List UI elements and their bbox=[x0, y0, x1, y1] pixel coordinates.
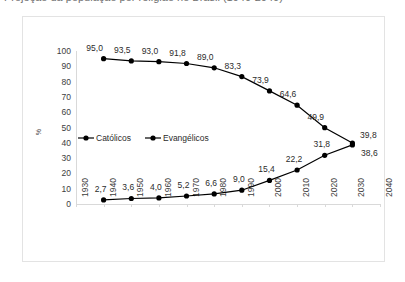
data-point[interactable] bbox=[129, 196, 134, 201]
data-label: 64,6 bbox=[280, 89, 297, 99]
data-label: 38,6 bbox=[361, 148, 378, 158]
data-point[interactable] bbox=[156, 59, 161, 64]
data-point[interactable] bbox=[129, 58, 134, 63]
data-label: 2,7 bbox=[95, 184, 107, 194]
caption-text: Projeção da população por religião no Br… bbox=[4, 0, 283, 3]
plot-area: % 0102030405060708090100 193019401950196… bbox=[23, 17, 386, 263]
chart-legend: CatólicosEvangélicos bbox=[78, 130, 258, 146]
data-label: 31,8 bbox=[313, 139, 330, 149]
data-label: 5,2 bbox=[178, 180, 190, 190]
legend-item-evangélicos[interactable]: Evangélicos bbox=[145, 133, 209, 143]
data-point[interactable] bbox=[184, 61, 189, 66]
data-point[interactable] bbox=[212, 191, 217, 196]
data-label: 49,9 bbox=[307, 112, 324, 122]
data-point[interactable] bbox=[156, 195, 161, 200]
data-point[interactable] bbox=[267, 178, 272, 183]
legend-marker-icon bbox=[78, 134, 94, 142]
chart-frame: % 0102030405060708090100 193019401950196… bbox=[22, 16, 385, 262]
data-point[interactable] bbox=[295, 167, 300, 172]
data-label: 93,0 bbox=[142, 46, 159, 56]
data-label: 39,8 bbox=[360, 130, 377, 140]
caption-strip: Projeção da população por religião no Br… bbox=[0, 0, 405, 9]
data-label: 93,5 bbox=[114, 45, 131, 55]
data-label: 91,8 bbox=[169, 48, 186, 58]
data-point[interactable] bbox=[239, 188, 244, 193]
data-point[interactable] bbox=[101, 197, 106, 202]
data-label: 73,9 bbox=[252, 75, 269, 85]
legend-label: Católicos bbox=[96, 133, 131, 143]
data-label: 83,3 bbox=[225, 61, 242, 71]
data-point[interactable] bbox=[322, 125, 327, 130]
data-point[interactable] bbox=[184, 193, 189, 198]
data-point[interactable] bbox=[267, 88, 272, 93]
data-point[interactable] bbox=[295, 103, 300, 108]
data-label: 22,2 bbox=[286, 154, 303, 164]
data-label: 3,6 bbox=[122, 182, 134, 192]
legend-label: Evangélicos bbox=[163, 133, 209, 143]
data-label: 89,0 bbox=[197, 52, 214, 62]
legend-item-católicos[interactable]: Católicos bbox=[78, 133, 131, 143]
data-point[interactable] bbox=[101, 56, 106, 61]
series-line-evangélicos bbox=[104, 145, 353, 200]
data-label: 9,0 bbox=[233, 174, 245, 184]
data-point[interactable] bbox=[322, 153, 327, 158]
data-point[interactable] bbox=[212, 65, 217, 70]
data-point[interactable] bbox=[239, 74, 244, 79]
data-point[interactable] bbox=[350, 142, 355, 147]
data-label: 95,0 bbox=[86, 43, 103, 53]
data-label: 15,4 bbox=[258, 164, 275, 174]
legend-marker-icon bbox=[145, 134, 161, 142]
data-label: 6,6 bbox=[205, 178, 217, 188]
data-label: 4,0 bbox=[150, 182, 162, 192]
